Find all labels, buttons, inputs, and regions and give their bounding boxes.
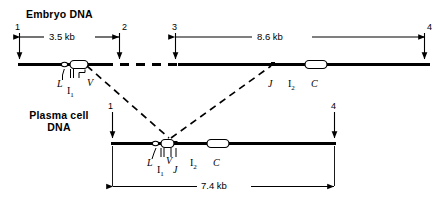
- embryo-label-I2-sub: 2: [291, 84, 295, 92]
- embryo-label-I1: I1: [67, 86, 74, 99]
- embryo-label-leaders: [63, 69, 86, 80]
- embryo-exon-C: [305, 61, 327, 69]
- embryo-exon-L: [61, 62, 67, 66]
- embryo-marker-4: 4: [427, 23, 432, 32]
- embryo-label-J: J: [268, 79, 272, 89]
- plasma-marker-1: 1: [108, 102, 113, 111]
- plasma-label-C: C: [213, 158, 220, 168]
- plasma-label-I2: I2: [190, 158, 197, 171]
- embryo-marker-3: 3: [172, 23, 177, 32]
- embryo-label-L: L: [57, 79, 63, 89]
- plasma-label-V: V: [166, 156, 172, 166]
- plasma-distance-1-4: 7.4 kb: [201, 181, 227, 191]
- embryo-marker-1: 1: [15, 23, 20, 32]
- embryo-distance-1-2: 3.5 kb: [49, 32, 75, 42]
- embryo-label-C: C: [311, 79, 318, 89]
- plasma-exon-V: [161, 140, 174, 148]
- plasma-title-line1: Plasma cell: [20, 110, 98, 121]
- embryo-label-V: V: [87, 78, 93, 88]
- plasma-label-J: J: [173, 165, 177, 175]
- plasma-marker-arrows: [113, 112, 335, 138]
- plasma-label-L: L: [147, 158, 153, 168]
- embryo-label-I1-sub: 1: [70, 91, 74, 99]
- embryo-exon-V: [70, 61, 88, 69]
- plasma-exon-C: [207, 140, 229, 148]
- plasma-exon-L: [152, 141, 158, 145]
- plasma-title-line2: DNA: [20, 122, 98, 133]
- plasma-label-leaders: [152, 148, 176, 159]
- embryo-label-I2: I2: [288, 79, 295, 92]
- embryo-distance-3-4: 8.6 kb: [257, 32, 283, 42]
- plasma-label-I2-sub: 2: [193, 163, 197, 171]
- embryo-exon-J: [271, 62, 275, 66]
- rearrangement-connectors: [87, 66, 271, 138]
- plasma-label-I1-sub: 1: [160, 170, 164, 178]
- embryo-title: Embryo DNA: [26, 9, 93, 20]
- embryo-marker-2: 2: [122, 23, 127, 32]
- plasma-label-I1: I1: [157, 165, 164, 178]
- gene-rearrangement-figure: Embryo DNA 1 2 3 4 3.5 kb 8.6 kb L I1 V …: [0, 0, 443, 205]
- plasma-marker-4: 4: [331, 102, 336, 111]
- plasma-exon-J: [174, 141, 178, 145]
